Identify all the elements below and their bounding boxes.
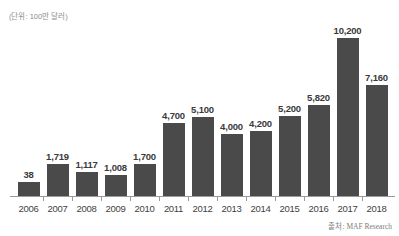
bar-group: 5,200 [275, 18, 304, 196]
bar-value-label: 10,200 [334, 26, 362, 36]
x-axis-tick-label: 2007 [43, 203, 72, 214]
bar-rect [105, 175, 127, 196]
x-axis-tick-label: 2013 [217, 203, 246, 214]
x-axis-tick-label: 2010 [130, 203, 159, 214]
x-axis-labels: 2006200720082009201020112012201320142015… [14, 203, 391, 214]
bar-rect [47, 164, 69, 196]
bar-group: 5,820 [304, 18, 333, 196]
bar-rect [337, 38, 359, 196]
bar-value-label: 4,000 [220, 122, 243, 132]
bar-group: 5,100 [188, 18, 217, 196]
tick-slot [159, 197, 188, 201]
tick-slot [333, 197, 362, 201]
x-axis-tick-label: 2018 [362, 203, 391, 214]
bar-group: 1,700 [130, 18, 159, 196]
bar-value-label: 38 [23, 170, 33, 180]
plot-area: 381,7191,1171,0081,7004,7005,1004,0004,2… [14, 18, 391, 196]
tick-slot [188, 197, 217, 201]
bar-value-label: 5,820 [307, 93, 330, 103]
tick-slot [362, 197, 391, 201]
bar-value-label: 4,700 [162, 111, 185, 121]
bar-value-label: 1,008 [104, 163, 127, 173]
x-axis-tick-label: 2008 [72, 203, 101, 214]
tick-slot [72, 197, 101, 201]
bar-rect [18, 182, 40, 196]
bar-value-label: 5,100 [191, 105, 214, 115]
bar-group: 1,719 [43, 18, 72, 196]
bar-group: 1,117 [72, 18, 101, 196]
bar-group: 1,008 [101, 18, 130, 196]
bar-group: 4,000 [217, 18, 246, 196]
x-axis-tick-label: 2011 [159, 203, 188, 214]
x-axis-tick-label: 2016 [304, 203, 333, 214]
bar-value-label: 1,700 [133, 152, 156, 162]
tick-slot [14, 197, 43, 201]
bar-rect [192, 117, 214, 196]
tick-slot [246, 197, 275, 201]
bar-value-label: 1,719 [46, 152, 69, 162]
tick-slot [304, 197, 333, 201]
bar-chart: (단위: 100만 달러) 381,7191,1171,0081,7004,70… [0, 0, 399, 236]
x-axis-tick-label: 2012 [188, 203, 217, 214]
bar-rect [250, 131, 272, 196]
bar-group: 10,200 [333, 18, 362, 196]
tick-slot [275, 197, 304, 201]
x-axis-ticks [14, 197, 391, 201]
bar-rect [76, 172, 98, 196]
bar-rect [366, 85, 388, 196]
bar-rect [221, 134, 243, 196]
tick-slot [130, 197, 159, 201]
tick-slot [217, 197, 246, 201]
bar-value-label: 5,200 [278, 104, 301, 114]
bar-group: 7,160 [362, 18, 391, 196]
bars-container: 381,7191,1171,0081,7004,7005,1004,0004,2… [14, 18, 391, 196]
bar-rect [308, 105, 330, 196]
bar-rect [134, 164, 156, 196]
x-axis-tick-label: 2006 [14, 203, 43, 214]
bar-value-label: 7,160 [365, 73, 388, 83]
source-note: 출처: MAF Research [328, 220, 392, 231]
bar-group: 4,200 [246, 18, 275, 196]
bar-group: 38 [14, 18, 43, 196]
tick-slot [43, 197, 72, 201]
tick-slot [101, 197, 130, 201]
bar-group: 4,700 [159, 18, 188, 196]
bar-value-label: 4,200 [249, 119, 272, 129]
bar-rect [163, 123, 185, 196]
x-axis-tick-label: 2017 [333, 203, 362, 214]
x-axis-tick-label: 2014 [246, 203, 275, 214]
x-axis-tick-label: 2009 [101, 203, 130, 214]
bar-value-label: 1,117 [75, 160, 97, 170]
bar-rect [279, 116, 301, 196]
x-axis-tick-label: 2015 [275, 203, 304, 214]
